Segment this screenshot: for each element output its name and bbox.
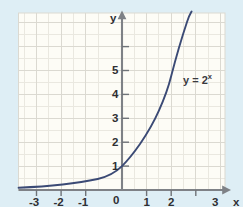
origin-tick-label: 0 bbox=[113, 195, 119, 207]
exponential-function-figure: y x 0 -3 -2 -1 1 2 3 1 2 3 4 5 y = 2x bbox=[0, 0, 243, 224]
curve-equation-exponent: x bbox=[208, 72, 212, 81]
y-axis-label: y bbox=[110, 13, 116, 25]
x-tick-label-minus1: -1 bbox=[78, 197, 88, 209]
x-tick-label-1: 1 bbox=[144, 197, 150, 209]
graph-canvas bbox=[0, 0, 243, 224]
y-tick-label-4: 4 bbox=[112, 89, 118, 101]
y-tick-label-5: 5 bbox=[112, 65, 118, 77]
x-tick-label-2: 2 bbox=[168, 197, 174, 209]
x-tick-label-3: 3 bbox=[212, 197, 218, 209]
y-tick-label-3: 3 bbox=[112, 113, 118, 125]
x-axis-arrowhead bbox=[222, 186, 231, 195]
x-axis-label: x bbox=[233, 197, 239, 209]
x-tick-label-minus3: -3 bbox=[29, 197, 39, 209]
curve-equation-label: y = 2x bbox=[183, 73, 212, 86]
y-tick-label-1: 1 bbox=[112, 161, 118, 173]
y-tick-label-2: 2 bbox=[112, 137, 118, 149]
curve-equation-base: y = 2 bbox=[183, 74, 208, 86]
x-tick-label-minus2: -2 bbox=[54, 197, 64, 209]
